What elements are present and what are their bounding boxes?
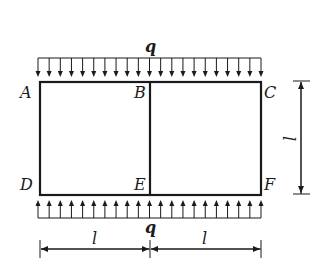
load-arrowhead: [69, 200, 74, 206]
bottom-load-label: q: [145, 218, 156, 237]
load-arrowhead: [91, 71, 96, 77]
node-label-c: C: [264, 83, 276, 102]
load-arrowhead: [58, 200, 63, 206]
load-arrowhead: [169, 71, 174, 77]
node-label-b: B: [133, 83, 146, 102]
load-arrowhead: [136, 71, 141, 77]
node-label-e: E: [133, 175, 146, 194]
load-arrowhead: [58, 71, 63, 77]
load-arrowhead: [203, 200, 208, 206]
frame-diagram: q A B C D E F q l l l: [0, 0, 331, 273]
load-arrowhead: [203, 71, 208, 77]
load-arrowhead: [169, 200, 174, 206]
load-arrowhead: [192, 71, 197, 77]
load-arrowhead: [247, 71, 252, 77]
right-span-label: l: [202, 229, 207, 248]
load-arrowhead: [247, 200, 252, 206]
frame-structure: [40, 82, 261, 195]
load-arrowhead: [125, 200, 130, 206]
load-arrowhead: [158, 200, 163, 206]
load-arrowhead: [236, 71, 241, 77]
load-arrowhead: [114, 200, 119, 206]
load-arrowhead: [36, 200, 41, 206]
load-arrowhead: [47, 200, 52, 206]
load-arrowhead: [69, 71, 74, 77]
load-arrowhead: [192, 200, 197, 206]
left-span-label: l: [92, 229, 97, 248]
load-arrowhead: [102, 200, 107, 206]
load-arrowhead: [180, 71, 185, 77]
load-arrowhead: [47, 71, 52, 77]
load-arrowhead: [80, 71, 85, 77]
load-arrowhead: [114, 71, 119, 77]
load-arrowhead: [158, 71, 163, 77]
load-arrowhead: [214, 200, 219, 206]
load-arrowhead: [214, 71, 219, 77]
load-arrowhead: [180, 200, 185, 206]
bottom-distributed-load: [36, 200, 264, 218]
horizontal-dimension: [40, 240, 261, 258]
load-arrowhead: [36, 71, 41, 77]
load-arrowhead: [147, 71, 152, 77]
load-arrowhead: [136, 200, 141, 206]
load-arrowhead: [147, 200, 152, 206]
height-label: l: [279, 136, 298, 141]
load-arrowhead: [80, 200, 85, 206]
load-arrowhead: [236, 200, 241, 206]
node-label-a: A: [18, 83, 32, 102]
top-load-label: q: [145, 37, 156, 56]
load-arrowhead: [125, 71, 130, 77]
load-arrowhead: [91, 200, 96, 206]
node-label-f: F: [263, 175, 276, 194]
load-arrowhead: [225, 200, 230, 206]
top-distributed-load: [36, 58, 264, 77]
load-arrowhead: [102, 71, 107, 77]
load-arrowhead: [259, 71, 264, 77]
load-arrowhead: [225, 71, 230, 77]
load-arrowhead: [259, 200, 264, 206]
node-label-d: D: [19, 175, 33, 194]
